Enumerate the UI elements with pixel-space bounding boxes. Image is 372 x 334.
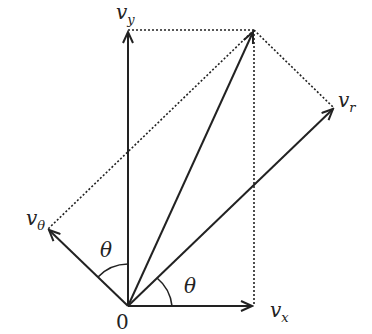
vx-label: vx bbox=[270, 300, 289, 324]
theta-upper-label: θ bbox=[100, 240, 112, 260]
theta-arc-lower bbox=[157, 278, 172, 306]
origin-label: 0 bbox=[116, 312, 129, 332]
vy-label: vy bbox=[116, 2, 135, 26]
theta-arc-upper bbox=[98, 264, 128, 277]
theta-lower-label: θ bbox=[184, 276, 196, 296]
vtheta-vector bbox=[49, 230, 128, 306]
vtheta-label: vθ bbox=[26, 208, 45, 232]
vr-label: vr bbox=[338, 90, 356, 114]
v-resultant-vector bbox=[128, 32, 253, 306]
vr-vector bbox=[128, 109, 333, 306]
